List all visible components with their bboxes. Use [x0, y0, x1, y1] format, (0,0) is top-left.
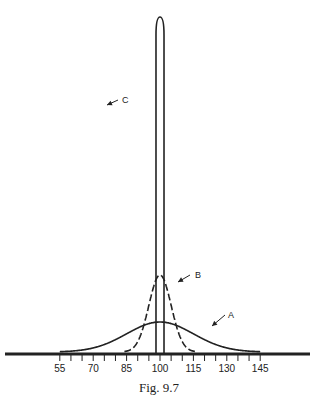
normal-distributions-figure: 557085100115130145 CBA	[0, 0, 318, 415]
curve-labels: CBA	[107, 95, 234, 326]
curve-b	[124, 275, 195, 352]
curve-label-b: B	[195, 270, 201, 280]
x-axis-ticks: 557085100115130145	[54, 355, 269, 374]
tick-label: 55	[54, 363, 66, 374]
tick-label: 115	[185, 363, 201, 374]
curves	[60, 17, 260, 354]
figure-caption: Fig. 9.7	[0, 380, 318, 396]
tick-label: 145	[252, 363, 269, 374]
tick-label: 70	[88, 363, 100, 374]
curve-c	[156, 17, 164, 354]
curve-a	[60, 322, 260, 352]
tick-label: 130	[218, 363, 235, 374]
tick-label: 100	[152, 363, 169, 374]
curve-label-c: C	[122, 95, 129, 105]
curve-label-a: A	[228, 310, 234, 320]
tick-label: 85	[121, 363, 133, 374]
